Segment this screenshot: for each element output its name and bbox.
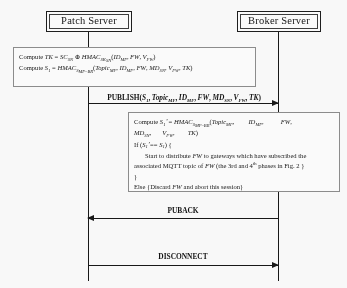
actor-broker-server[interactable]: Broker Server: [237, 11, 321, 32]
note-patch-line-1: Compute TK = SCSN ⊕ HMACSKSN(IDMF, FW, V…: [19, 52, 250, 63]
actor-broker-server-label: Broker Server: [248, 16, 310, 27]
note-broker-verify[interactable]: Compute S1’ = HMACSMF–BR(TopicMF,IDMF,FW…: [128, 112, 340, 192]
note-broker-line-3: If (S1’== S1) {: [134, 140, 334, 151]
note-broker-line-1: Compute S1’ = HMACSMF–BR(TopicMF,IDMF,FW…: [134, 117, 334, 128]
arrowhead-right-icon: [272, 262, 279, 268]
disconnect-message-label: DISCONNECT: [88, 252, 278, 261]
publish-message-arrow[interactable]: [88, 103, 278, 104]
arrowhead-right-icon: [272, 100, 279, 106]
actor-patch-server-label: Patch Server: [61, 16, 117, 27]
puback-message-label: PUBACK: [88, 206, 278, 215]
publish-message-label: PUBLISH(S1, TopicMF, IDMF, FW, MDSN, VFW…: [96, 93, 272, 102]
note-broker-line-5: }: [134, 172, 334, 182]
actor-patch-server[interactable]: Patch Server: [46, 11, 132, 32]
note-broker-line-4b: associated MQTT topic of FW (the 3rd and…: [134, 161, 334, 172]
disconnect-message-arrow[interactable]: [88, 265, 278, 266]
sequence-diagram-canvas: Patch Server Broker Server Compute TK = …: [0, 0, 347, 288]
note-patch-line-2: Compute S1 = HMACSMF–BR(TopicMF, IDMF, F…: [19, 63, 250, 74]
note-patch-compute[interactable]: Compute TK = SCSN ⊕ HMACSKSN(IDMF, FW, V…: [13, 47, 256, 87]
puback-message-arrow[interactable]: [88, 218, 278, 219]
note-broker-line-2: MDSN,VFW,TK): [134, 128, 334, 139]
arrowhead-left-icon: [87, 215, 94, 221]
note-broker-line-6: Else {Discard FW and abort this session}: [134, 182, 334, 192]
